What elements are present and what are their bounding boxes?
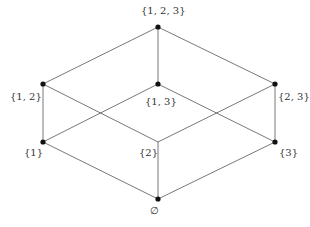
node-label-n12: {1, 2} bbox=[10, 91, 42, 102]
node-dot-n12 bbox=[40, 81, 45, 86]
node-dot-n23 bbox=[272, 81, 277, 86]
node-label-n0: ∅ bbox=[150, 205, 159, 216]
nodes bbox=[40, 24, 277, 201]
node-dot-n0 bbox=[155, 196, 160, 201]
node-label-n1: {1} bbox=[24, 147, 43, 158]
node-label-n3: {3} bbox=[279, 147, 298, 158]
node-dot-n3 bbox=[272, 139, 277, 144]
node-label-n23: {2, 3} bbox=[278, 91, 310, 102]
node-label-n123: {1, 2, 3} bbox=[141, 5, 186, 16]
node-label-n2: {2} bbox=[139, 147, 158, 158]
node-label-n13: {1, 3} bbox=[145, 96, 177, 107]
node-dot-n123 bbox=[155, 24, 160, 29]
hasse-diagram bbox=[0, 0, 310, 227]
edges bbox=[43, 27, 275, 199]
edge-n3-n0 bbox=[158, 142, 275, 199]
edge-n123-n23 bbox=[158, 27, 275, 84]
node-dot-n13 bbox=[155, 81, 160, 86]
edge-n123-n12 bbox=[43, 27, 158, 84]
node-dot-n1 bbox=[40, 139, 45, 144]
